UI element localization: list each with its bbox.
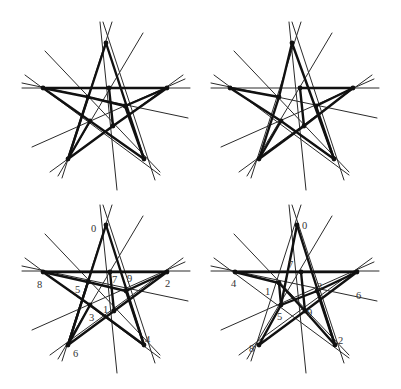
vertex-point (228, 86, 233, 91)
thick-edge (316, 106, 334, 159)
vertex-label: 4 (231, 278, 237, 289)
vertex-point (142, 157, 147, 162)
panel-bottom-right: 0482713596 (211, 205, 379, 373)
thick-edge (68, 126, 113, 159)
thick-edge (300, 88, 304, 126)
vertex-label: 0 (91, 223, 96, 234)
vertex-point (86, 280, 91, 285)
vertex-point (112, 309, 117, 314)
vertex-point (165, 270, 170, 275)
vertex-point (279, 119, 284, 124)
panel-top-right (211, 22, 379, 190)
vertex-point (355, 270, 360, 275)
vertex-point (88, 303, 93, 308)
vertex-point (123, 104, 128, 109)
vertex-point (299, 270, 304, 275)
vertex-point (302, 124, 307, 129)
vertex-label: 8 (249, 343, 254, 354)
vertex-label: 3 (317, 281, 322, 292)
vertex-point (279, 303, 284, 308)
vertex-point (86, 95, 91, 100)
vertex-point (332, 157, 337, 162)
figure-canvas: 08264759310482713596 (0, 0, 401, 389)
vertex-label: 4 (145, 334, 151, 345)
thick-edge (90, 305, 144, 345)
vertex-label: 7 (112, 274, 117, 285)
vertex-point (107, 86, 112, 91)
vertex-label: 9 (307, 307, 312, 318)
vertex-label: 2 (338, 335, 343, 346)
vertex-point (314, 104, 319, 109)
vertex-point (66, 343, 71, 348)
vertex-point (298, 86, 303, 91)
vertex-label: 5 (75, 284, 80, 295)
vertex-label: 3 (89, 312, 94, 323)
vertex-point (295, 223, 300, 228)
thick-edge (279, 43, 292, 97)
vertex-label: 1 (265, 286, 270, 297)
vertex-point (233, 270, 238, 275)
vertex-label: 0 (302, 220, 307, 231)
panel-top-left (22, 22, 190, 190)
vertex-label: 6 (73, 348, 78, 359)
vertex-label: 1 (103, 304, 108, 315)
vertex-point (104, 223, 109, 228)
vertex-point (290, 41, 295, 46)
vertex-label: 8 (37, 279, 42, 290)
thin-line (45, 234, 160, 355)
vertex-label: 7 (288, 259, 293, 270)
thick-edge (235, 272, 279, 283)
panel-bottom-left: 0826475931 (22, 205, 190, 373)
vertex-point (41, 270, 46, 275)
vertex-point (277, 95, 282, 100)
vertex-point (257, 157, 262, 162)
vertex-point (257, 343, 262, 348)
vertex-point (41, 86, 46, 91)
vertex-point (111, 124, 116, 129)
vertex-point (351, 86, 356, 91)
vertex-point (88, 119, 93, 124)
vertex-point (104, 41, 109, 46)
vertex-label: 9 (127, 273, 132, 284)
vertex-label: 2 (165, 278, 170, 289)
line-label: 6 (356, 290, 361, 301)
vertex-point (277, 281, 282, 286)
vertex-point (333, 343, 338, 348)
vertex-point (165, 86, 170, 91)
vertex-point (124, 289, 129, 294)
vertex-label: 5 (277, 311, 282, 322)
vertex-point (66, 157, 71, 162)
